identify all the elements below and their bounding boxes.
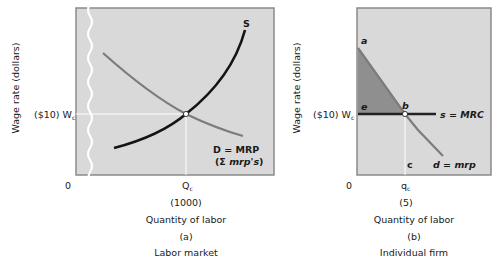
firm-y-axis-label: Wage rate (dollars) — [291, 42, 302, 133]
x-axis-label: Quantity of labor — [146, 214, 227, 225]
point-a-label: a — [361, 35, 367, 46]
point-b-label: b — [402, 100, 409, 111]
supply-label: S — [243, 18, 250, 29]
firm-x-axis-label: Quantity of labor — [374, 214, 455, 225]
firm-panel-caption: Individual firm — [380, 247, 448, 258]
demand-sum-note: (Σ mrp's) — [215, 156, 263, 167]
point-c-label: c — [407, 159, 413, 170]
quantity-tick-label: Qc — [182, 180, 193, 192]
wage-tick-label: ($10) Wc — [34, 109, 75, 121]
quantity-value: (1000) — [170, 197, 202, 208]
firm-origin-label: 0 — [346, 180, 352, 191]
panel-caption: Labor market — [154, 247, 218, 258]
market-equilibrium-point — [183, 111, 188, 116]
y-axis-label: Wage rate (dollars) — [10, 42, 21, 133]
demand-label: D = MRP — [213, 144, 259, 155]
firm-quantity-value: (5) — [399, 197, 412, 208]
firm-quantity-tick-label: qc — [401, 180, 410, 192]
firm-wage-tick-label: ($10) Wc — [313, 109, 354, 121]
firm-panel-letter: (b) — [407, 231, 420, 242]
origin-label: 0 — [65, 180, 71, 191]
panel-letter: (a) — [179, 231, 192, 242]
panel-a-labor-market: S D = MRP (Σ mrp's) Wage rate (dollars) … — [10, 4, 274, 258]
mrc-label: s = MRC — [440, 109, 484, 120]
firm-demand-label: d = mrp — [433, 159, 476, 170]
point-e-label: e — [361, 101, 368, 112]
labor-market-diagram: S D = MRP (Σ mrp's) Wage rate (dollars) … — [0, 0, 495, 262]
firm-equilibrium-point — [402, 111, 407, 116]
panel-b-individual-firm: a e b c s = MRC d = mrp Wage rate (dolla… — [291, 8, 491, 258]
